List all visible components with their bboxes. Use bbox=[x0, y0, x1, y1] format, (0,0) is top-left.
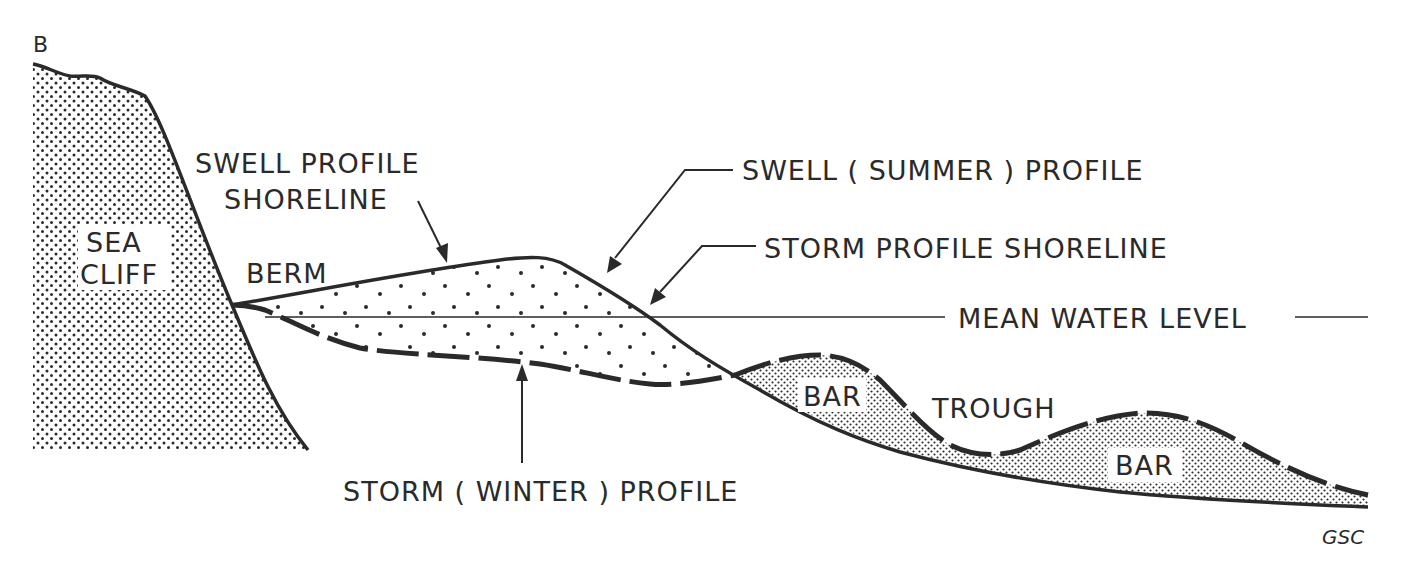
sea-cliff-fill bbox=[33, 64, 308, 450]
sea-cliff-label-line2: CLIFF bbox=[80, 259, 158, 290]
storm-shoreline-arrowhead-icon bbox=[650, 288, 666, 305]
trough-label: TROUGH bbox=[931, 393, 1056, 424]
sea-cliff-label-line1: SEA bbox=[86, 227, 142, 258]
swell-summer-profile-label: SWELL ( SUMMER ) PROFILE bbox=[742, 155, 1144, 186]
swell-shoreline-arrowhead-icon bbox=[436, 243, 448, 263]
swell-profile-shoreline-label-line2: SHORELINE bbox=[224, 184, 388, 215]
berm-label: BERM bbox=[246, 258, 328, 289]
swell-summer-arrow-shaft bbox=[615, 170, 733, 258]
bar-1-label: BAR bbox=[803, 381, 862, 412]
storm-winter-profile-label: STORM ( WINTER ) PROFILE bbox=[343, 476, 738, 507]
storm-winter-arrowhead-icon bbox=[516, 364, 528, 381]
swell-summer-arrowhead-icon bbox=[607, 256, 622, 273]
credit-label: GSC bbox=[1322, 525, 1364, 549]
beach-profile-diagram: B SEA CLIFF BERM SWELL PROFILE SHORELINE… bbox=[0, 0, 1405, 568]
mean-water-level-label: MEAN WATER LEVEL bbox=[958, 303, 1247, 334]
storm-shoreline-arrow-shaft bbox=[660, 246, 756, 292]
bar-2-label: BAR bbox=[1115, 450, 1174, 481]
storm-profile-shoreline-label: STORM PROFILE SHORELINE bbox=[764, 233, 1168, 264]
section-marker-label: B bbox=[33, 32, 48, 57]
swell-shoreline-arrow-shaft bbox=[418, 201, 443, 252]
swell-profile-shoreline-label-line1: SWELL PROFILE bbox=[195, 148, 419, 179]
